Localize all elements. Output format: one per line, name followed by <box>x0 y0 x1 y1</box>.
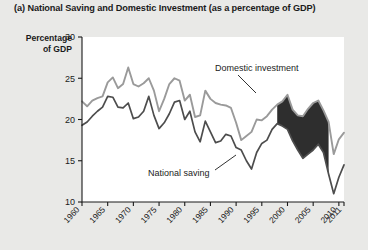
x-tick-label-2000: 2000 <box>267 204 287 225</box>
x-tick-label-2011: 2011 <box>324 204 344 224</box>
figure-panel: (a) National Saving and Domestic Investm… <box>0 0 368 250</box>
plot-area: 1015202530196019651970197519801985199019… <box>61 32 344 225</box>
x-tick-label-2005: 2005 <box>293 204 313 225</box>
y-tick-label-20: 20 <box>65 115 75 125</box>
x-tick-label-1975: 1975 <box>138 204 158 225</box>
x-tick-label-1960: 1960 <box>61 204 81 225</box>
x-tick-label-1965: 1965 <box>87 204 107 225</box>
x-tick-label-1980: 1980 <box>164 204 184 225</box>
y-tick-label-25: 25 <box>65 74 75 84</box>
x-tick-label-1995: 1995 <box>241 204 261 225</box>
chart-canvas: 1015202530196019651970197519801985199019… <box>0 0 368 250</box>
y-tick-label-15: 15 <box>65 156 75 166</box>
annotation-domestic-investment: Domestic investment <box>215 63 299 73</box>
x-tick-label-1970: 1970 <box>113 204 133 225</box>
y-tick-label-30: 30 <box>65 32 75 42</box>
annotation-national-saving: National saving <box>148 168 210 178</box>
x-tick-label-1985: 1985 <box>190 204 210 225</box>
x-tick-label-1990: 1990 <box>216 204 236 225</box>
